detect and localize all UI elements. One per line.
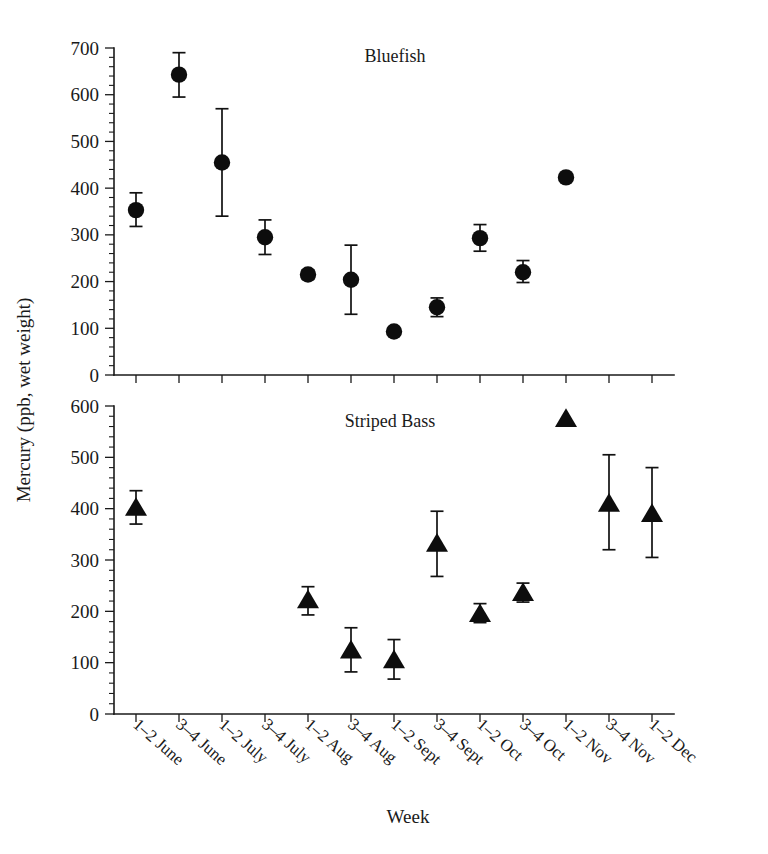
y-tick-label: 500	[71, 131, 100, 152]
x-axis-title: Week	[387, 806, 430, 827]
y-tick-label: 500	[71, 447, 100, 468]
marker-circle-icon	[515, 264, 531, 280]
marker-circle-icon	[214, 154, 230, 170]
marker-circle-icon	[300, 266, 316, 282]
figure-panel-chart: Mercury (ppb, wet weight) Bluefish 01002…	[0, 0, 768, 854]
y-axis-title: Mercury (ppb, wet weight)	[13, 298, 35, 503]
mercury-week-scatter-chart: Mercury (ppb, wet weight) Bluefish 01002…	[0, 0, 768, 854]
y-tick-label: 400	[71, 178, 100, 199]
marker-circle-icon	[386, 323, 402, 339]
y-tick-label: 600	[71, 396, 100, 417]
y-tick-label: 600	[71, 84, 100, 105]
marker-circle-icon	[257, 229, 273, 245]
marker-circle-icon	[429, 299, 445, 315]
data-point	[300, 266, 316, 282]
y-tick-label: 100	[71, 652, 100, 673]
panel-title-bluefish: Bluefish	[365, 46, 426, 66]
marker-circle-icon	[128, 202, 144, 218]
data-point	[558, 169, 574, 185]
y-tick-label: 700	[71, 38, 100, 59]
y-tick-label: 200	[71, 271, 100, 292]
y-tick-label: 300	[71, 550, 100, 571]
marker-circle-icon	[472, 230, 488, 246]
marker-circle-icon	[343, 272, 359, 288]
y-tick-label: 400	[71, 498, 100, 519]
y-tick-label: 0	[90, 365, 100, 386]
y-tick-label: 0	[90, 704, 100, 725]
y-tick-label: 100	[71, 318, 100, 339]
y-tick-label: 200	[71, 601, 100, 622]
data-point	[386, 323, 402, 339]
marker-circle-icon	[558, 169, 574, 185]
y-tick-label: 300	[71, 224, 100, 245]
panel-title-striped-bass: Striped Bass	[345, 411, 436, 431]
marker-circle-icon	[171, 66, 187, 82]
